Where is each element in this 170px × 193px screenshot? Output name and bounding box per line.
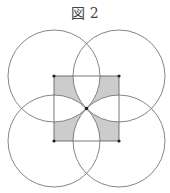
corner-point [52,74,55,77]
center-point [85,107,89,111]
corner-point [117,139,120,142]
corner-point [117,74,120,77]
diagram [0,0,170,193]
corner-point [52,139,55,142]
